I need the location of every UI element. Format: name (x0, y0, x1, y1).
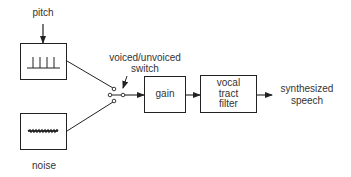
output-label-line1: synthesized (274, 83, 340, 94)
switch-label-line2: switch (100, 63, 190, 74)
switch-pivot (121, 93, 125, 97)
vocal-tract-filter-box: vocal tract filter (200, 75, 257, 113)
vocal-tract-line3: filter (201, 99, 256, 110)
pitch-label: pitch (28, 7, 58, 18)
switch-label-line1: voiced/unvoiced (100, 52, 190, 63)
gain-box: gain (144, 76, 186, 113)
noise-source-box (20, 113, 67, 150)
switch-contact-middle (108, 93, 112, 97)
unvoiced-line (67, 102, 113, 131)
vocal-tract-line1: vocal (201, 78, 256, 89)
switch-contact-lower (112, 99, 116, 103)
pitch-source-box (20, 43, 67, 80)
switch-label-arrow (123, 76, 127, 88)
gain-label: gain (145, 89, 185, 100)
noise-waveform-icon (21, 114, 66, 149)
switch-contact-upper (112, 87, 116, 91)
output-label-line2: speech (274, 95, 340, 106)
impulse-train-icon (21, 44, 66, 79)
noise-label: noise (28, 160, 60, 171)
